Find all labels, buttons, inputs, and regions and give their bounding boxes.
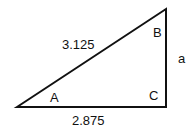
angle-a-label: A — [50, 91, 59, 104]
angle-c-label: C — [149, 89, 158, 102]
side-a-label: a — [178, 52, 185, 65]
base-label: 2.875 — [72, 114, 105, 127]
angle-b-label: B — [153, 26, 162, 39]
hypotenuse-label: 3.125 — [62, 38, 95, 51]
